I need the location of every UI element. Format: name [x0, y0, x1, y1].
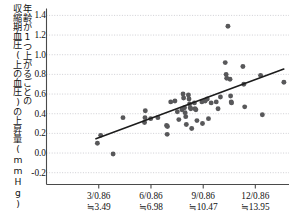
chart-plot-area — [0, 0, 292, 218]
data-point — [187, 97, 192, 102]
data-point — [168, 99, 173, 104]
data-point — [165, 124, 170, 129]
data-point — [223, 60, 228, 65]
x-tick-label-line2: ≒6.98 — [139, 202, 163, 213]
data-point — [193, 107, 198, 112]
data-point — [200, 121, 205, 126]
data-point — [228, 77, 233, 82]
x-tick-label-line1: 3/0.86 — [87, 191, 111, 202]
data-point — [181, 96, 186, 101]
data-point — [175, 109, 180, 114]
x-tick-label: 9/0.86≒10.47 — [189, 191, 218, 214]
x-tick-label-line1: 9/0.86 — [189, 191, 218, 202]
data-point — [189, 126, 194, 131]
data-point — [206, 116, 211, 121]
data-point — [143, 108, 148, 113]
x-tick-label-line2: ≒10.47 — [189, 202, 218, 213]
data-point — [95, 141, 100, 146]
data-point — [165, 132, 170, 137]
data-point — [228, 94, 233, 99]
data-point — [225, 24, 230, 29]
data-point — [242, 104, 247, 109]
x-axis-ticks — [99, 185, 256, 189]
data-point — [229, 100, 234, 105]
x-tick-label: 6/0.86≒6.98 — [139, 191, 163, 214]
data-point — [184, 122, 189, 127]
scatter-chart-figure: 年齢が1つ上がるごとの 収縮期血圧(上の血圧)の上昇量(mmHg) -0.20.… — [0, 0, 292, 218]
data-point — [209, 100, 214, 105]
data-point — [281, 80, 286, 85]
data-points-group — [95, 24, 286, 157]
data-point — [216, 106, 221, 111]
data-point — [111, 152, 116, 157]
data-point — [121, 115, 126, 120]
data-point — [240, 64, 245, 69]
data-point — [218, 95, 223, 100]
gridlines — [47, 15, 290, 172]
x-tick-label-line2: ≒13.95 — [241, 202, 270, 213]
data-point — [172, 98, 177, 103]
data-point — [188, 106, 193, 111]
data-point — [194, 118, 199, 123]
x-tick-label-line2: ≒3.49 — [87, 202, 111, 213]
data-point — [214, 99, 219, 104]
data-point — [176, 117, 181, 122]
x-tick-label-line1: 12/0.86 — [241, 191, 270, 202]
data-point — [183, 114, 188, 119]
x-tick-label: 3/0.86≒3.49 — [87, 191, 111, 214]
x-tick-label: 12/0.86≒13.95 — [241, 191, 270, 214]
x-tick-label-line1: 6/0.86 — [139, 191, 163, 202]
data-point — [260, 112, 265, 117]
